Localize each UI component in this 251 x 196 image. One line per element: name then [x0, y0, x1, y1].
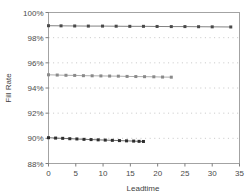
series-bottom-marker-11 [125, 139, 128, 142]
series-top-marker-2 [73, 24, 76, 27]
series-bottom-marker-7 [97, 138, 100, 141]
series-top-marker-11 [197, 25, 200, 28]
x-tick-label-30: 30 [208, 169, 217, 178]
chart-container: 88%90%92%94%96%98%100% 05101520253035 Le… [0, 0, 251, 196]
series-middle-marker-1 [56, 74, 59, 77]
x-tick-label-20: 20 [153, 169, 162, 178]
series-top-marker-10 [183, 25, 186, 28]
series-middle-marker-0 [47, 73, 50, 76]
series-bottom-marker-1 [54, 137, 57, 140]
series-middle-marker-8 [117, 75, 120, 78]
series-middle-marker-9 [126, 75, 129, 78]
series-bottom [47, 136, 145, 143]
x-tick-label-15: 15 [126, 169, 135, 178]
series-bottom-marker-5 [82, 138, 85, 141]
x-tick-label-10: 10 [99, 169, 108, 178]
series-middle-marker-4 [82, 74, 85, 77]
y-tick-label-96: 96% [27, 59, 43, 68]
series-bottom-marker-6 [90, 138, 93, 141]
series-middle-marker-5 [91, 74, 94, 77]
series-top-marker-1 [60, 24, 63, 27]
x-axis-ticks: 05101520253035 [46, 164, 244, 178]
series-middle-marker-7 [108, 75, 111, 78]
y-tick-label-98: 98% [27, 34, 43, 43]
series-middle-marker-10 [134, 75, 137, 78]
y-tick-label-94: 94% [27, 84, 43, 93]
x-tick-label-35: 35 [235, 169, 244, 178]
series-top-marker-3 [87, 25, 90, 28]
series-bottom-marker-12 [132, 140, 135, 143]
series-bottom-marker-9 [111, 139, 114, 142]
series-top [47, 24, 232, 28]
x-axis-title: Leadtime [127, 184, 160, 193]
series-bottom-marker-10 [118, 139, 121, 142]
y-tick-label-90: 90% [27, 134, 43, 143]
series-bottom-marker-4 [75, 137, 78, 140]
y-tick-label-92: 92% [27, 109, 43, 118]
series-top-marker-12 [211, 25, 214, 28]
series-middle-marker-13 [161, 76, 164, 79]
series-bottom-marker-2 [61, 137, 64, 140]
x-tick-label-5: 5 [74, 169, 79, 178]
series-middle-marker-12 [152, 75, 155, 78]
series-top-marker-0 [47, 24, 50, 27]
series-top-marker-8 [156, 25, 159, 28]
y-axis-title: Fill Rate [4, 73, 13, 103]
series-middle-marker-3 [73, 74, 76, 77]
y-axis-ticks: 88%90%92%94%96%98%100% [23, 9, 48, 169]
series-bottom-marker-3 [68, 137, 71, 140]
series-middle [47, 73, 173, 78]
series-top-marker-5 [115, 25, 118, 28]
data-series-layer [47, 24, 232, 143]
series-top-marker-4 [101, 25, 104, 28]
series-top-marker-9 [170, 25, 173, 28]
series-bottom-marker-14 [142, 140, 145, 143]
series-top-marker-6 [128, 25, 131, 28]
series-middle-marker-14 [170, 76, 173, 79]
series-top-marker-7 [142, 25, 145, 28]
series-bottom-marker-13 [138, 140, 141, 143]
gridlines [49, 38, 240, 139]
series-middle-marker-6 [99, 74, 102, 77]
series-bottom-marker-0 [47, 136, 50, 139]
x-tick-label-0: 0 [46, 169, 51, 178]
series-top-marker-13 [229, 25, 232, 28]
series-middle-marker-11 [143, 75, 146, 78]
series-middle-marker-2 [64, 74, 67, 77]
series-bottom-marker-8 [104, 139, 107, 142]
y-tick-label-88: 88% [27, 160, 43, 169]
y-tick-label-100: 100% [23, 9, 43, 18]
fill-rate-vs-leadtime-chart: 88%90%92%94%96%98%100% 05101520253035 Le… [0, 0, 251, 196]
x-tick-label-25: 25 [180, 169, 189, 178]
